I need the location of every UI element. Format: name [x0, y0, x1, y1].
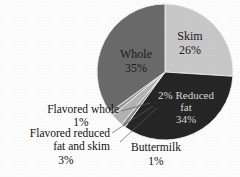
slice-label-whole-value: 35%	[125, 61, 147, 75]
callout-flavored-reduced-name1: Flavored reduced	[30, 127, 110, 139]
slice-label-reduced-fat-name1: 2% Reduced	[158, 89, 214, 101]
pie-chart-figure: Skim 26% 2% Reduced fat 34% Whole 35% Fl…	[0, 0, 240, 177]
pie-chart-svg: Skim 26% 2% Reduced fat 34% Whole 35% Fl…	[0, 0, 240, 177]
callout-flavored-reduced-name2: fat and skim	[53, 140, 110, 152]
slice-label-skim-value: 26%	[179, 43, 201, 57]
pie-slices-group	[97, 4, 233, 140]
callout-flavored-reduced-value: 3%	[58, 154, 74, 166]
slice-label-skim: Skim 26%	[177, 29, 203, 57]
slice-label-reduced-fat-value: 34%	[176, 113, 196, 125]
slice-label-whole-name: Whole	[120, 47, 152, 61]
callout-buttermilk-name: Buttermilk	[131, 141, 181, 153]
slice-label-skim-name: Skim	[177, 29, 203, 43]
callout-buttermilk-value: 1%	[148, 155, 164, 167]
slice-label-reduced-fat-name2: fat	[180, 101, 192, 113]
callout-flavored-whole-name: Flavored whole	[47, 103, 119, 115]
